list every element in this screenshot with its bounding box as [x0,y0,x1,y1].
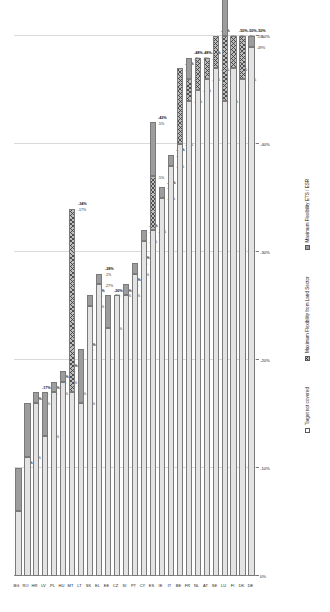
segment-target-not-covered [150,230,156,576]
segment-target-not-covered [69,392,75,576]
segment-flex-land-sector [177,68,183,144]
value-axis: 0%-10%-20%-30%-40%-50% [256,36,276,576]
bar-total-label: -50% [239,30,247,34]
segment-flex-ets-esr [132,263,138,274]
segment-target-not-covered [60,382,66,576]
gridline--30 [14,251,256,252]
plot-area: -6%-4%-10%-11%-5%-16%-16%-1%-17%-13%-4%-… [14,36,256,576]
segment-flex-ets-esr [96,274,102,285]
bar-row [204,58,210,576]
bar-row [69,209,75,576]
bar-total-label: -50% [257,30,265,34]
value-tick [256,467,259,468]
segment-flex-ets-esr [78,349,84,403]
segment-flex-ets-esr [168,155,174,166]
segment-target-not-covered [132,274,138,576]
segment-flex-ets-esr [60,371,66,382]
bar-row [33,392,39,576]
segment-target-not-covered [177,144,183,576]
bar-total-label: -50% [248,30,256,34]
segment-flex-land-sector [204,58,210,80]
value-tick-label: 0% [260,574,266,579]
legend-item[interactable]: Maximum Flexibility from Land Sector [305,276,310,361]
value-tick [256,35,259,36]
segment-target-not-covered [78,403,84,576]
bar-row [222,0,228,576]
segment-target-not-covered [87,306,93,576]
bar-row [150,122,156,576]
segment-flex-ets-esr [150,122,156,176]
legend-item[interactable]: Target not covered [305,387,310,433]
plot-inner: -6%-4%-10%-11%-5%-16%-16%-1%-17%-13%-4%-… [14,36,256,576]
segment-value-label: -5% [158,176,164,180]
legend-item[interactable]: Maximum Flexibility ETS / ESR [305,179,310,251]
segment-target-not-covered [204,79,210,576]
bar-total-label: -26% [114,289,122,293]
bar-row [213,36,219,576]
segment-target-not-covered [105,328,111,576]
value-tick [256,359,259,360]
segment-target-not-covered [248,47,254,576]
segment-flex-land-sector [186,79,192,101]
value-tick-label: -20% [260,358,270,363]
segment-flex-ets-esr [248,36,254,47]
bar-row [132,263,138,576]
value-tick-label: -40% [260,142,270,147]
segment-target-not-covered [42,436,48,576]
segment-target-not-covered [222,101,228,576]
segment-flex-ets-esr [42,392,48,435]
segment-value-label: -17% [78,208,86,212]
bar-row [24,403,30,576]
bar-row [141,230,147,576]
bar-row [230,36,236,576]
segment-flex-ets-esr [123,284,129,295]
legend-label: Maximum Flexibility from Land Sector [305,276,310,353]
segment-flex-ets-esr [24,403,30,457]
bar-row [96,274,102,576]
segment-value-label: -5% [158,122,164,126]
chart-figure: BGROHRLVPLHUMTLTSKELEECZSIPTCYESIEITBEFR… [0,0,330,612]
bar-row [186,58,192,576]
segment-flex-land-sector [230,36,236,68]
segment-flex-land-sector [239,36,245,79]
value-tick [256,251,259,252]
segment-flex-land-sector [213,36,219,68]
bar-row [60,371,66,576]
bar-row [168,155,174,576]
legend-label: Maximum Flexibility ETS / ESR [305,179,310,243]
value-tick [256,575,259,576]
segment-target-not-covered [24,457,30,576]
segment-value-label: -1% [105,273,111,277]
bar-row [248,36,254,576]
value-tick-label: -30% [260,250,270,255]
value-tick-label: -10% [260,466,270,471]
legend-swatch-icon [305,356,310,361]
gridline--50 [14,35,256,36]
value-tick-label: -50% [260,34,270,39]
segment-flex-land-sector [69,209,75,393]
segment-flex-ets-esr [87,295,93,306]
bar-row [195,58,201,576]
segment-target-not-covered [114,295,120,576]
segment-flex-ets-esr [222,0,228,36]
segment-target-not-covered [123,295,129,576]
segment-flex-ets-esr [186,58,192,80]
segment-flex-land-sector [150,176,156,230]
segment-target-not-covered [186,101,192,576]
bar-row [105,295,111,576]
segment-flex-ets-esr [105,295,111,327]
chart-legend: Target not coveredMaximum Flexibility fr… [292,36,322,576]
segment-flex-ets-esr [159,187,165,198]
segment-flex-land-sector [222,36,228,101]
category-axis: BGROHRLVPLHUMTLTSKELEECZSIPTCYESIEITBEFR… [14,578,256,592]
gridline--40 [14,143,256,144]
bar-total-label: -28% [105,267,113,271]
bar-total-label: -48% [194,51,202,55]
bar-row [114,295,120,576]
legend-swatch-icon [305,245,310,250]
bar-row [42,392,48,576]
segment-flex-ets-esr [33,392,39,403]
segment-target-not-covered [96,284,102,576]
segment-flex-ets-esr [141,230,147,241]
segment-target-not-covered [239,79,245,576]
